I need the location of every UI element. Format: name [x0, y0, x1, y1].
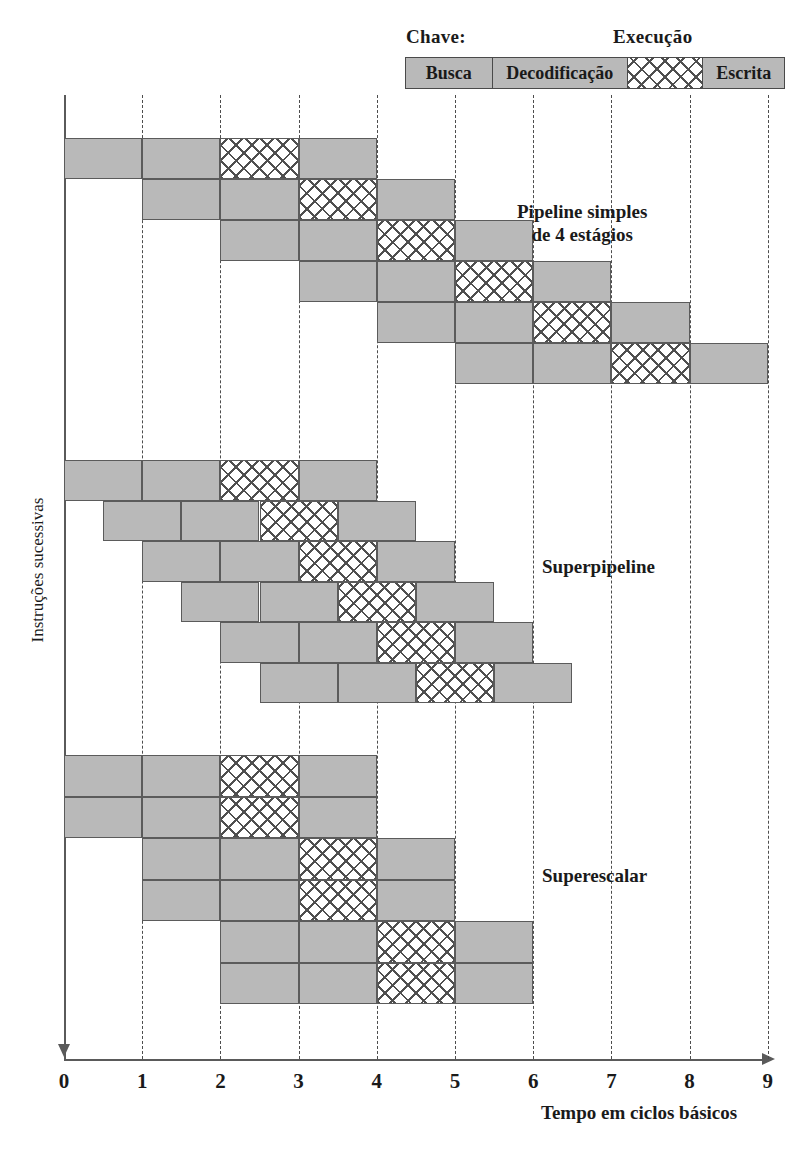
stage-block-busca [220, 622, 298, 663]
stage-block-execuo [220, 460, 298, 501]
stage-block-execuo [416, 663, 494, 704]
x-tick-label-4: 4 [357, 1069, 397, 1094]
stage-block-busca [64, 755, 142, 797]
x-tick-label-1: 1 [122, 1069, 162, 1094]
stage-block-escrita [299, 797, 377, 839]
crosshatch-pattern-icon [221, 461, 297, 500]
stage-block-decodificao [142, 460, 220, 501]
stage-block-busca [220, 963, 298, 1005]
crosshatch-pattern-icon [378, 964, 454, 1004]
group-label-line: Pipeline simples [517, 200, 647, 223]
group-label-line: de 4 estágios [517, 223, 647, 246]
stage-block-decodificao [181, 501, 259, 542]
stage-block-execuo [377, 622, 455, 663]
x-tick-label-9: 9 [748, 1069, 788, 1094]
stage-block-decodificao [299, 220, 377, 261]
gridline-9 [768, 95, 769, 1059]
y-axis-arrow-icon [58, 1044, 70, 1057]
stage-block-execuo [260, 501, 338, 542]
y-axis-line [64, 95, 66, 1060]
stage-block-decodificao [220, 838, 298, 880]
crosshatch-pattern-icon [300, 542, 376, 581]
legend-cell-label: Decodificação [506, 63, 613, 84]
x-axis-caption: Tempo em ciclos básicos [541, 1102, 737, 1124]
x-tick-label-8: 8 [670, 1069, 710, 1094]
stage-block-busca [377, 302, 455, 343]
legend-execution-label: Execução [613, 26, 692, 48]
stage-block-execuo [299, 541, 377, 582]
stage-block-execuo [611, 343, 689, 384]
stage-block-busca [220, 220, 298, 261]
crosshatch-pattern-icon [300, 881, 376, 921]
stage-block-execuo [455, 261, 533, 302]
stage-block-decodificao [338, 663, 416, 704]
crosshatch-pattern-icon [221, 798, 297, 838]
stage-block-busca [142, 838, 220, 880]
crosshatch-pattern-icon [378, 221, 454, 260]
stage-block-execuo [220, 138, 298, 179]
stage-block-busca [142, 880, 220, 922]
stage-block-busca [299, 261, 377, 302]
stage-block-decodificao [142, 755, 220, 797]
stage-block-execuo [299, 880, 377, 922]
stage-block-decodificao [299, 921, 377, 963]
stage-block-decodificao [142, 138, 220, 179]
stage-block-busca [220, 921, 298, 963]
x-tick-label-7: 7 [591, 1069, 631, 1094]
legend-cell-execucao [627, 58, 703, 88]
stage-block-busca [64, 460, 142, 501]
legend-cell-busca: Busca [406, 58, 492, 88]
stage-block-execuo [299, 838, 377, 880]
stage-block-execuo [377, 921, 455, 963]
crosshatch-pattern-icon [628, 58, 703, 88]
x-tick-label-2: 2 [200, 1069, 240, 1094]
x-tick-label-3: 3 [279, 1069, 319, 1094]
stage-block-busca [260, 663, 338, 704]
x-axis-line [64, 1059, 767, 1061]
crosshatch-pattern-icon [378, 922, 454, 962]
stage-block-decodificao [455, 302, 533, 343]
legend-cell-label: Escrita [716, 63, 771, 84]
stage-block-escrita [377, 179, 455, 220]
x-tick-label-6: 6 [513, 1069, 553, 1094]
x-tick-label-5: 5 [435, 1069, 475, 1094]
stage-block-execuo [533, 302, 611, 343]
crosshatch-pattern-icon [221, 139, 297, 178]
stage-block-execuo [377, 963, 455, 1005]
legend-cell-escrita: Escrita [702, 58, 784, 88]
stage-block-escrita [299, 755, 377, 797]
stage-block-busca [455, 343, 533, 384]
stage-block-execuo [220, 797, 298, 839]
crosshatch-pattern-icon [534, 303, 610, 342]
stage-block-busca [103, 501, 181, 542]
x-tick-label-0: 0 [44, 1069, 84, 1094]
gridline-8 [690, 95, 691, 1059]
stage-block-escrita [494, 663, 572, 704]
legend-box: BuscaDecodificaçãoEscrita [405, 57, 785, 89]
pipeline-timing-diagram: Chave: Execução BuscaDecodificaçãoEscrit… [0, 0, 805, 1151]
crosshatch-pattern-icon [261, 502, 337, 541]
stage-block-escrita [299, 460, 377, 501]
stage-block-escrita [455, 963, 533, 1005]
stage-block-escrita [416, 582, 494, 623]
stage-block-busca [181, 582, 259, 623]
stage-block-decodificao [220, 179, 298, 220]
stage-block-decodificao [377, 261, 455, 302]
group-label-1: Pipeline simplesde 4 estágios [517, 200, 647, 246]
stage-block-decodificao [220, 541, 298, 582]
crosshatch-pattern-icon [339, 583, 415, 622]
stage-block-busca [142, 541, 220, 582]
stage-block-escrita [377, 838, 455, 880]
legend-key-label: Chave: [406, 26, 466, 48]
crosshatch-pattern-icon [417, 664, 493, 703]
stage-block-escrita [377, 541, 455, 582]
crosshatch-pattern-icon [378, 623, 454, 662]
stage-block-escrita [690, 343, 768, 384]
stage-block-execuo [299, 179, 377, 220]
stage-block-escrita [533, 261, 611, 302]
stage-block-decodificao [299, 963, 377, 1005]
stage-block-busca [64, 138, 142, 179]
stage-block-execuo [338, 582, 416, 623]
stage-block-escrita [611, 302, 689, 343]
stage-block-escrita [455, 622, 533, 663]
